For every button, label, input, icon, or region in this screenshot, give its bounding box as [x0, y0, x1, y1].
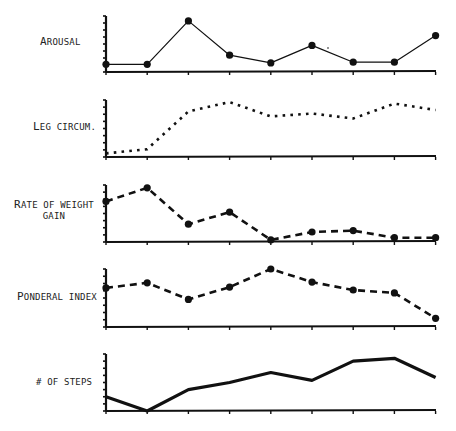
data-point-marker	[144, 184, 151, 191]
data-point-marker	[350, 227, 357, 234]
data-point-marker	[144, 279, 151, 286]
label-leg-rest: EG CIRCUM.	[40, 122, 96, 132]
panel-rate-of-weight-gain	[102, 184, 439, 245]
data-point-marker	[391, 234, 398, 241]
data-point-marker	[185, 17, 192, 24]
data-point-marker	[226, 284, 233, 291]
series-line-arousal	[106, 21, 436, 64]
label-ponderal-rest: ONDERAL INDEX	[24, 292, 97, 302]
scan-speck	[327, 47, 329, 49]
data-point-marker	[308, 42, 315, 49]
data-point-marker	[102, 284, 109, 291]
series-line-number-of-steps	[106, 358, 436, 411]
data-point-marker	[102, 198, 109, 205]
data-point-marker	[350, 286, 357, 293]
data-point-marker	[391, 59, 398, 66]
data-point-marker	[185, 221, 192, 228]
data-point-marker	[102, 61, 109, 68]
x-axis	[106, 410, 436, 411]
data-point-marker	[432, 32, 439, 39]
label-rate-initial: R	[14, 198, 21, 211]
x-axis	[106, 71, 436, 72]
data-point-marker	[185, 296, 192, 303]
x-axis	[106, 326, 436, 327]
series-line-rate-of-weight-gain	[106, 188, 436, 240]
label-ponderal-initial: P	[17, 290, 24, 303]
panel-number-of-steps	[103, 354, 436, 414]
label-leg-initial: L	[33, 120, 40, 133]
label-rate-rest: ATE OF WEIGHT	[21, 200, 94, 210]
series-line-ponderal-index	[106, 269, 436, 318]
data-point-marker	[432, 234, 439, 241]
label-rate-of-weight-gain: RATE OF WEIGHTGAIN	[14, 199, 94, 222]
data-point-marker	[226, 52, 233, 59]
label-leg-circum: LEG CIRCUM.	[33, 121, 96, 133]
data-point-marker	[267, 236, 274, 243]
data-point-marker	[391, 289, 398, 296]
label-arousal: AROUSAL	[40, 36, 81, 48]
x-axis	[106, 156, 436, 157]
series-line-leg-circum	[106, 102, 436, 153]
data-point-marker	[432, 315, 439, 322]
data-point-marker	[267, 59, 274, 66]
label-rate-line1: RATE OF WEIGHT	[14, 199, 94, 211]
panel-leg-circum	[103, 100, 436, 160]
data-point-marker	[226, 209, 233, 216]
data-point-marker	[267, 265, 274, 272]
data-point-marker	[308, 279, 315, 286]
panel-ponderal-index	[102, 265, 439, 330]
label-number-of-steps: # OF STEPS	[36, 377, 92, 388]
data-point-marker	[308, 228, 315, 235]
label-ponderal-index: PONDERAL INDEX	[17, 291, 97, 303]
panel-arousal	[102, 16, 439, 75]
label-arousal-rest: ROUSAL	[47, 37, 81, 47]
label-arousal-initial: A	[40, 35, 47, 48]
data-point-marker	[350, 59, 357, 66]
label-rate-line2: GAIN	[14, 211, 94, 222]
data-point-marker	[144, 61, 151, 68]
